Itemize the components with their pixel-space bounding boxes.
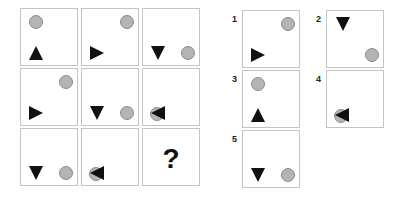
triangle-down-icon [151,46,165,60]
option-5[interactable] [242,130,300,188]
grid-cell-r1c1 [20,8,78,66]
triangle-up-icon [251,108,265,122]
grid-cell-r1c2 [81,8,139,66]
gray-circle-icon [281,168,295,182]
gray-circle-icon [181,46,195,60]
gray-circle-icon [120,15,134,29]
grid-cell-r3c1 [20,128,78,186]
option-label: 3 [232,74,237,84]
triangle-right-icon [29,106,43,120]
gray-circle-icon [365,48,379,62]
gray-circle-icon [281,17,295,31]
triangle-down-icon [336,17,350,31]
triangle-down-icon [29,166,43,180]
grid-cell-r2c1 [20,68,78,126]
triangle-left-icon [90,166,104,180]
option-label: 1 [232,14,237,24]
grid-cell-r1c3 [142,8,200,66]
triangle-up-icon [29,46,43,60]
grid-cell-r3c2 [81,128,139,186]
grid-cell-r2c2 [81,68,139,126]
question-mark: ? [143,143,199,175]
grid-cell-r2c3 [142,68,200,126]
grid-cell-r3c3: ? [142,128,200,186]
gray-circle-icon [29,15,43,29]
option-label: 5 [232,134,237,144]
gray-circle-icon [120,106,134,120]
triangle-right-icon [90,46,104,60]
triangle-right-icon [251,48,265,62]
gray-circle-icon [251,77,265,91]
gray-circle-icon [59,75,73,89]
triangle-down-icon [90,106,104,120]
option-2[interactable] [326,10,384,68]
triangle-down-icon [251,168,265,182]
option-1[interactable] [242,10,300,68]
option-3[interactable] [242,70,300,128]
triangle-left-icon [335,108,349,122]
option-label: 2 [316,14,321,24]
option-label: 4 [316,74,321,84]
option-4[interactable] [326,70,384,128]
gray-circle-icon [59,166,73,180]
triangle-left-icon [151,106,165,120]
